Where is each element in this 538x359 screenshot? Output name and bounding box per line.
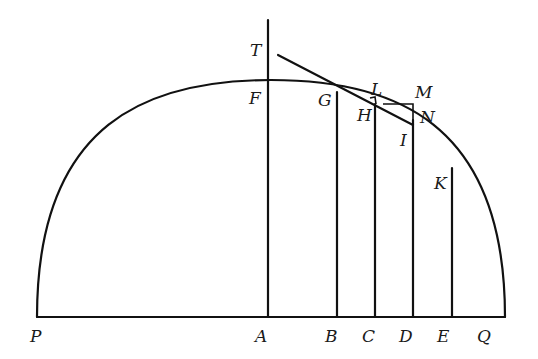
label-c: C bbox=[362, 326, 375, 346]
label-m: M bbox=[414, 82, 433, 102]
label-k: K bbox=[433, 173, 448, 193]
tangent-line-tn bbox=[278, 55, 413, 125]
label-g: G bbox=[318, 90, 332, 110]
label-n: N bbox=[419, 107, 436, 127]
label-h: H bbox=[356, 105, 373, 125]
diagram-canvas: P A B C D E Q T F G L H M N I K bbox=[0, 0, 538, 359]
label-a: A bbox=[253, 326, 267, 346]
label-i: I bbox=[399, 130, 407, 150]
label-t: T bbox=[250, 40, 263, 60]
label-d: D bbox=[398, 326, 413, 346]
label-e: E bbox=[436, 326, 450, 346]
label-b: B bbox=[324, 326, 338, 346]
label-p: P bbox=[29, 326, 42, 346]
label-l: L bbox=[370, 79, 382, 99]
label-f: F bbox=[248, 88, 262, 108]
label-q: Q bbox=[477, 326, 491, 346]
